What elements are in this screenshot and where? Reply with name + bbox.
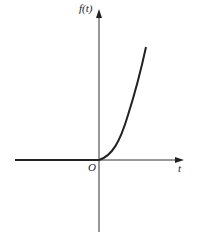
x-axis-label: t — [178, 163, 181, 174]
y-axis-arrow-icon — [96, 9, 102, 18]
origin-label: O — [88, 162, 96, 173]
curve-positive-segment — [99, 47, 146, 160]
plot-area — [0, 0, 199, 247]
y-axis-label: f(t) — [79, 3, 92, 14]
